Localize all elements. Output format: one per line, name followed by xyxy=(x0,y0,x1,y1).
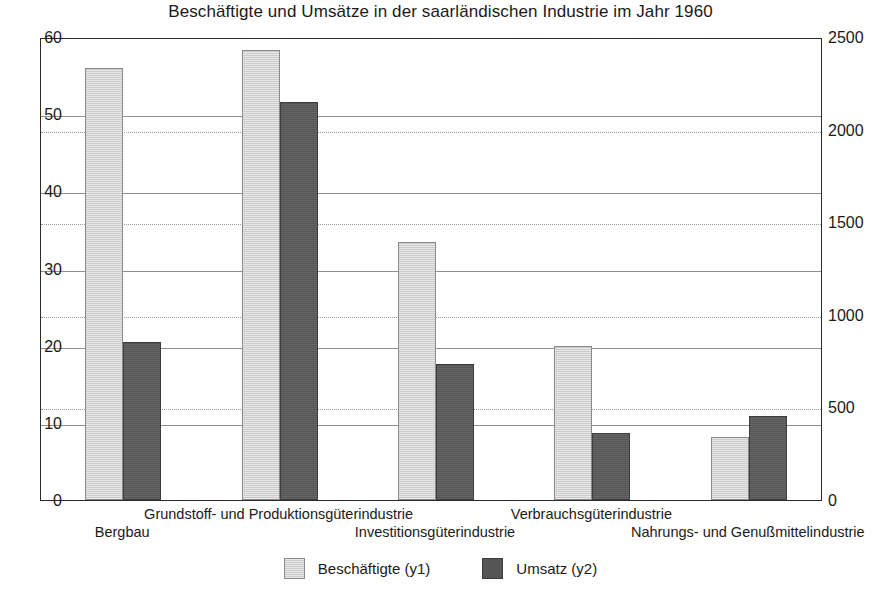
bar-umsatz-4 xyxy=(749,416,787,500)
x-axis-label-3: Verbrauchsgüterindustrie xyxy=(511,507,672,522)
bar-beschaeftigte-3 xyxy=(554,346,592,500)
legend-label-1: Umsatz (y2) xyxy=(516,561,597,576)
y2-tick-label: 1000 xyxy=(828,308,864,324)
chart-title: Beschäftigte und Umsätze in der saarländ… xyxy=(0,2,881,22)
chart-legend: Beschäftigte (y1)Umsatz (y2) xyxy=(0,558,881,579)
y1-tick-label: 20 xyxy=(44,339,62,355)
bar-beschaeftigte-0 xyxy=(85,68,123,500)
y1-tick-label: 0 xyxy=(53,493,62,509)
x-axis-label-2: Investitionsgüterindustrie xyxy=(355,525,515,540)
y1-tick-label: 60 xyxy=(44,30,62,46)
legend-swatch-icon-0 xyxy=(284,558,305,579)
bar-umsatz-1 xyxy=(280,102,318,500)
legend-entry-0[interactable]: Beschäftigte (y1) xyxy=(284,558,431,579)
y1-tick-label: 30 xyxy=(44,262,62,278)
y2-tick-label: 1500 xyxy=(828,215,864,231)
y1-tick-label: 50 xyxy=(44,107,62,123)
bar-beschaeftigte-1 xyxy=(242,50,280,500)
y2-tick-label: 2500 xyxy=(828,30,864,46)
y2-tick-label: 2000 xyxy=(828,123,864,139)
bar-beschaeftigte-4 xyxy=(711,437,749,500)
bars-group xyxy=(41,39,821,500)
y1-tick-label: 40 xyxy=(44,184,62,200)
legend-entry-1[interactable]: Umsatz (y2) xyxy=(482,558,597,579)
y1-tick-label: 10 xyxy=(44,416,62,432)
bar-umsatz-2 xyxy=(436,364,474,500)
plot-area xyxy=(40,38,822,501)
bar-umsatz-0 xyxy=(123,342,161,500)
legend-swatch-icon-1 xyxy=(482,558,503,579)
x-axis-label-1: Grundstoff- und Produktionsgüterindustri… xyxy=(144,507,413,522)
legend-label-0: Beschäftigte (y1) xyxy=(318,561,431,576)
y2-tick-label: 500 xyxy=(828,400,855,416)
bar-umsatz-3 xyxy=(592,433,630,500)
bar-beschaeftigte-2 xyxy=(398,242,436,500)
bar-chart: Beschäftigte und Umsätze in der saarländ… xyxy=(0,0,881,592)
y2-tick-label: 0 xyxy=(828,493,837,509)
x-axis-label-4: Nahrungs- und Genußmittelindustrie xyxy=(631,525,865,540)
x-axis-label-0: Bergbau xyxy=(95,525,150,540)
